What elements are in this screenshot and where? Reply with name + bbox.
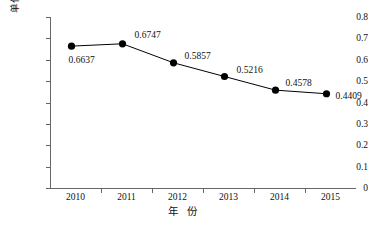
x-axis-title: 年 份 (0, 203, 368, 218)
data-point-marker (170, 59, 177, 66)
series-plot (0, 0, 368, 226)
data-point-label: 0.5216 (237, 65, 263, 75)
data-point-label: 0.6747 (135, 30, 161, 40)
data-point-label: 0.4578 (286, 78, 312, 88)
data-point-marker (68, 43, 75, 50)
data-point-marker (119, 40, 126, 47)
data-point-label: 0.5857 (185, 51, 211, 61)
data-point-marker (323, 90, 330, 97)
data-point-label: 0.4409 (336, 91, 362, 101)
data-point-marker (272, 87, 279, 94)
data-point-marker (221, 73, 228, 80)
data-point-label: 0.6637 (69, 55, 95, 65)
series-markers (68, 40, 330, 97)
chart-container: 单位产值SO2排放量/(kg/万元) 00.10.20.30.40.50.60.… (0, 0, 368, 226)
